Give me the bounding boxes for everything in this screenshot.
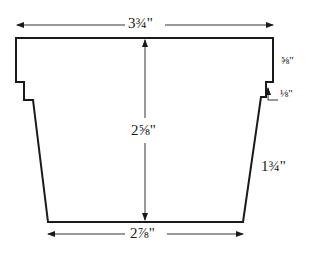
height-label: 2⅝" bbox=[131, 123, 156, 138]
flowerpot-diagram bbox=[0, 0, 314, 258]
top-width-label: 3¾" bbox=[128, 16, 153, 31]
step-leader-line bbox=[268, 88, 278, 100]
rim-height-label: ⅝" bbox=[281, 55, 294, 66]
bottom-width-label: 2⅞" bbox=[130, 226, 155, 241]
step-label: ⅛" bbox=[280, 88, 293, 99]
slant-side-label: 1¾" bbox=[261, 159, 286, 174]
